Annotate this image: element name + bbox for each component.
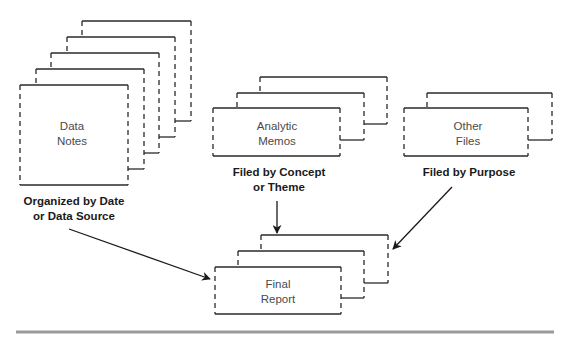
final-report-title-line: Final (266, 278, 291, 290)
data-notes-title-line: Data (60, 120, 85, 132)
final-report-layer-0 (215, 267, 341, 314)
final-report-title-line: Report (261, 293, 296, 305)
data-notes-to-final-report-arrow (69, 229, 210, 279)
file-organization-diagram: DataNotesOrganized by Dateor Data Source… (0, 0, 564, 341)
other-files-caption-line: Filed by Purpose (423, 166, 516, 178)
data-notes-caption-line: Organized by Date (24, 195, 125, 207)
analytic-memos-caption-line: Filed by Concept (233, 166, 326, 178)
data-notes-stack (20, 21, 191, 185)
analytic-memos-stack (213, 77, 387, 156)
analytic-memos-caption-line: or Theme (253, 181, 305, 193)
final-report-stack (215, 235, 388, 314)
other-files-layer-0 (404, 108, 528, 156)
analytic-memos-layer-0 (213, 108, 340, 156)
data-notes-caption-line: or Data Source (33, 210, 115, 222)
divider-rule (16, 331, 554, 334)
analytic-memos-title-line: Memos (258, 135, 296, 147)
data-notes-title-line: Notes (57, 135, 87, 147)
diagram-canvas: DataNotesOrganized by Dateor Data Source… (0, 0, 564, 341)
other-files-title-line: Other (454, 120, 483, 132)
analytic-memos-title-line: Analytic (257, 120, 298, 132)
other-files-title-line: Files (456, 135, 481, 147)
other-files-to-final-report-arrow (393, 187, 452, 249)
